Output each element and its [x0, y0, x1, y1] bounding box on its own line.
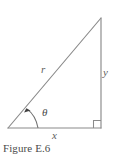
right-angle-marker-icon	[94, 121, 102, 129]
figure-caption: Figure E.6	[3, 142, 50, 154]
hypotenuse-label: r	[41, 64, 45, 75]
vertical-leg-label: y	[103, 67, 108, 78]
horizontal-leg-label: x	[52, 130, 57, 141]
arc-arrowhead-icon	[24, 108, 31, 112]
angle-arc	[27, 109, 39, 128]
figure-container: r y x θ Figure E.6	[0, 0, 113, 158]
angle-theta-label: θ	[42, 107, 47, 118]
hypotenuse-line	[8, 18, 101, 128]
